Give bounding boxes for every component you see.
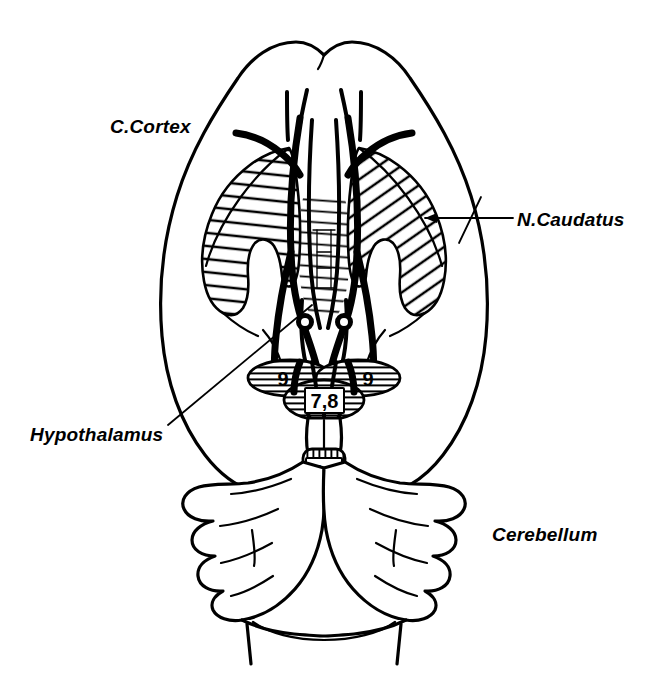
medulla (242, 620, 406, 664)
brain-diagram-figure: 9 9 7,8 5,6 (0, 0, 648, 674)
label-cortex: C.Cortex (110, 116, 192, 137)
label-hypothalamus: Hypothalamus (30, 424, 163, 445)
label-caudatus: N.Caudatus (517, 209, 625, 230)
cerebellum (183, 462, 465, 621)
midline-ventricular-region (298, 198, 349, 316)
brain-diagram-svg: 9 9 7,8 5,6 (0, 0, 648, 674)
region-78-label: 7,8 (311, 390, 339, 412)
region-left-9-label: 9 (277, 368, 288, 390)
region-right-9-label: 9 (362, 368, 373, 390)
label-cerebellum: Cerebellum (492, 524, 597, 545)
